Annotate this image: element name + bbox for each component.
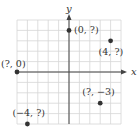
y-axis-label: y (65, 3, 72, 14)
point-dot-icon (15, 70, 20, 75)
point-dot-icon (25, 122, 30, 127)
point-label: (?, 0) (1, 58, 26, 69)
x-axis-label: x (131, 66, 137, 77)
point-label: (−4, ?) (12, 107, 45, 118)
points: (0, ?)(4, ?)(?, 0)(?, −3)(−4, ?) (1, 24, 123, 126)
point: (?, −3) (82, 86, 115, 105)
coordinate-plane: x y (0, ?)(4, ?)(?, 0)(?, −3)(−4, ?) (0, 0, 137, 136)
y-axis-arrow-icon (67, 14, 72, 20)
point-label: (?, −3) (82, 86, 115, 97)
point-dot-icon (67, 28, 72, 33)
axes: x y (17, 3, 137, 124)
point-dot-icon (98, 101, 103, 106)
point-label: (4, ?) (99, 46, 124, 57)
x-axis-arrow-icon (121, 70, 127, 75)
point: (0, ?) (67, 24, 99, 35)
point-label: (0, ?) (74, 24, 99, 35)
point-dot-icon (108, 38, 113, 43)
